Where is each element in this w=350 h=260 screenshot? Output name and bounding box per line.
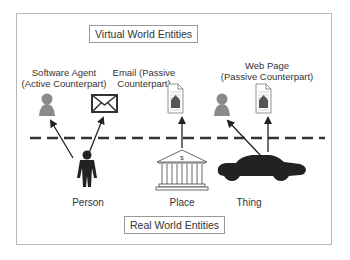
person-label: Person	[68, 197, 108, 208]
car-icon	[218, 155, 306, 181]
real-world-title: Real World Entities	[124, 216, 225, 234]
place-label: Place	[162, 197, 202, 208]
bank-building-icon: $	[156, 150, 208, 190]
web-page-document-icon	[256, 84, 271, 113]
user-silhouette-icon	[214, 94, 230, 117]
person-figure-icon	[77, 151, 97, 188]
thing-label: Thing	[229, 197, 269, 208]
envelope-icon	[92, 95, 117, 112]
web-page-document-icon	[168, 84, 183, 113]
software-agent-icon	[39, 94, 55, 117]
